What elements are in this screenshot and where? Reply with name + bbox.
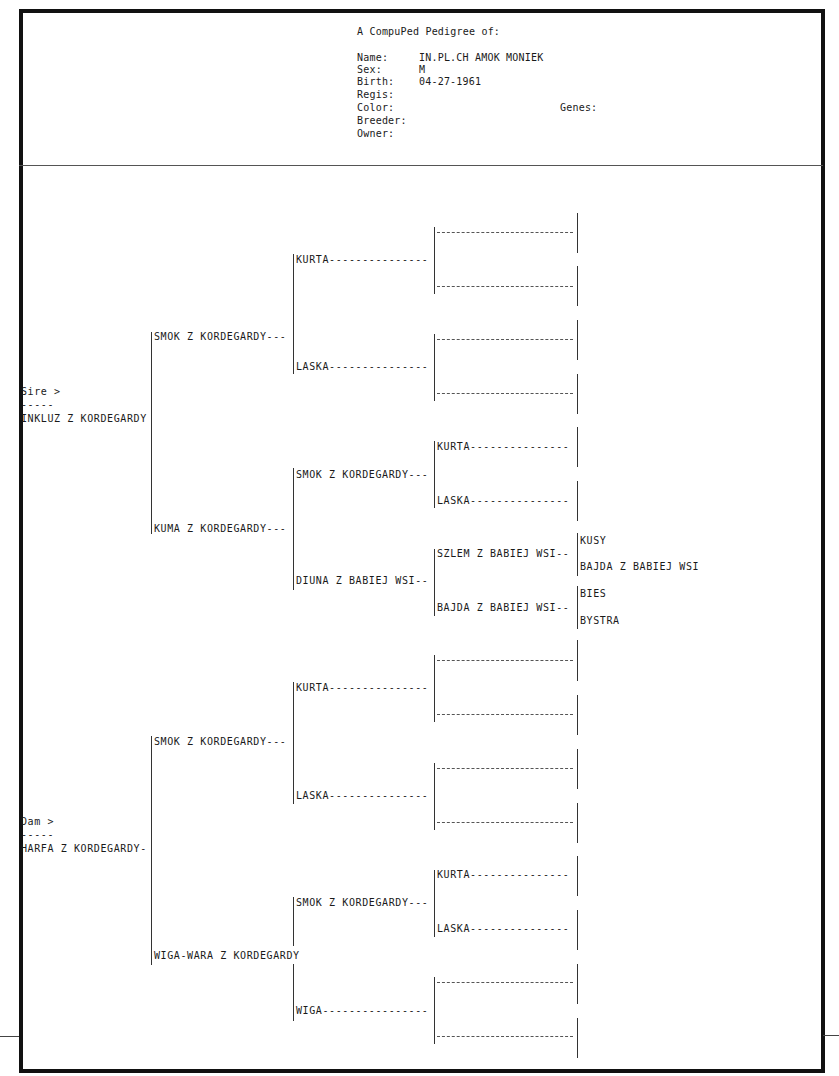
gen5-bar: [577, 427, 578, 467]
unknown-ancestor-line: [437, 1036, 573, 1037]
gen4-bar-2: [434, 334, 435, 401]
unknown-ancestor-line: [437, 393, 573, 394]
unknown-ancestor-line: [437, 768, 573, 769]
dam-marker: Dam >: [21, 816, 54, 828]
gen5-bar: [577, 803, 578, 843]
genes-label: Genes:: [560, 102, 597, 115]
gen5-bar: [577, 641, 578, 681]
dam-name: HARFA Z KORDEGARDY-: [21, 843, 147, 855]
sire-dam-dam-dam-name: BAJDA Z BABIEJ WSI--: [437, 602, 569, 614]
birth-value: 04-27-1961: [419, 76, 481, 89]
birth-label: Birth:: [357, 76, 394, 89]
gen4-bar-4: [434, 549, 435, 616]
breeder-label: Breeder:: [357, 115, 407, 128]
sire-dam-dam-name: DIUNA Z BABIEJ WSI--: [296, 575, 428, 587]
gen4-bar-7: [434, 870, 435, 937]
dam-dam-parents-bar-top: [293, 897, 294, 946]
unknown-ancestor-line: [437, 714, 573, 715]
sire-name: INKLUZ Z KORDEGARDY: [21, 413, 147, 425]
dam-sire-dam-name: LASKA---------------: [296, 790, 428, 802]
sire-dam-sire-name: SMOK Z KORDEGARDY---: [296, 469, 428, 481]
sire-dam-parents-bar: [293, 468, 294, 590]
gen4-bar-1: [434, 227, 435, 294]
gen4-bar-3: [434, 441, 435, 508]
sire-dam-sire-sire-name: KURTA---------------: [437, 441, 569, 453]
dam-dam-sire-sire-name: KURTA---------------: [437, 869, 569, 881]
unknown-ancestor-line: [437, 286, 573, 287]
dam-dam-dam-name: WIGA----------------: [296, 1005, 428, 1017]
gen5-bar: [577, 964, 578, 1004]
sire-parents-bar: [151, 332, 152, 534]
dam-dam-sire-dam-name: LASKA---------------: [437, 923, 569, 935]
sire-dam-sire-dam-name: LASKA---------------: [437, 495, 569, 507]
gen5-bar: [577, 749, 578, 789]
header-divider: [19, 165, 823, 166]
dam-dam-parents-bar-bottom: [293, 964, 294, 1021]
unknown-ancestor-line: [437, 822, 573, 823]
sex-value: M: [419, 64, 425, 77]
pedigree-title: A CompuPed Pedigree of:: [357, 26, 500, 39]
name-label: Name:: [357, 52, 388, 65]
dam-sire-sire-name: KURTA---------------: [296, 682, 428, 694]
sex-label: Sex:: [357, 64, 382, 77]
dam-dam-name: WIGA-WARA Z KORDEGARDY: [154, 950, 300, 962]
edge-mark-left: [0, 1036, 19, 1037]
dam-parents-bar: [151, 736, 152, 965]
owner-label: Owner:: [357, 128, 394, 141]
gen5-bar: [577, 1018, 578, 1058]
gen4-bar-8: [434, 977, 435, 1044]
unknown-ancestor-line: [437, 660, 573, 661]
gen5-bar: [577, 533, 578, 576]
page-frame: [19, 9, 825, 1073]
regis-label: Regis:: [357, 89, 394, 102]
sire-sire-parents-bar: [293, 254, 294, 374]
gen4-bar-5: [434, 655, 435, 722]
sire-sire-sire-name: KURTA---------------: [296, 254, 428, 266]
gen5-bar: [577, 374, 578, 414]
sire-dam-dam-sire-name: SZLEM Z BABIEJ WSI--: [437, 548, 569, 560]
name-value: IN.PL.CH AMOK MONIEK: [419, 52, 543, 65]
gen5-bar: [577, 266, 578, 306]
gen5-bajda: BAJDA Z BABIEJ WSI: [580, 561, 699, 573]
gen5-bar: [577, 695, 578, 735]
dam-dam-sire-name: SMOK Z KORDEGARDY---: [296, 897, 428, 909]
gen5-kusy: KUSY: [580, 535, 606, 547]
gen5-bar: [577, 213, 578, 253]
dam-marker-rule: -----: [21, 829, 54, 841]
unknown-ancestor-line: [437, 982, 573, 983]
sire-dam-name: KUMA Z KORDEGARDY---: [154, 523, 286, 535]
gen5-bar: [577, 910, 578, 950]
dam-sire-name: SMOK Z KORDEGARDY---: [154, 736, 286, 748]
gen5-bar: [577, 856, 578, 896]
dam-sire-parents-bar: [293, 682, 294, 804]
color-label: Color:: [357, 102, 394, 115]
gen5-bar: [577, 320, 578, 360]
sire-marker-rule: -----: [21, 399, 54, 411]
unknown-ancestor-line: [437, 339, 573, 340]
sire-sire-dam-name: LASKA---------------: [296, 361, 428, 373]
unknown-ancestor-line: [437, 232, 573, 233]
sire-sire-name: SMOK Z KORDEGARDY---: [154, 331, 286, 343]
sire-marker: Sire >: [21, 386, 61, 398]
gen5-bar: [577, 481, 578, 521]
gen5-bystra: BYSTRA: [580, 615, 620, 627]
edge-mark-right: [823, 1035, 839, 1036]
gen4-bar-6: [434, 763, 435, 830]
gen5-bies: BIES: [580, 588, 606, 600]
gen5-bar: [577, 586, 578, 629]
